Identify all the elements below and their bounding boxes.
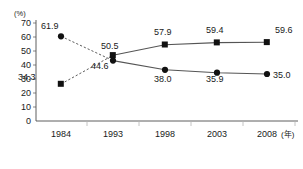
y-tick-label-60: 60 xyxy=(21,32,31,42)
x-tick-label-2003: 2003 xyxy=(207,129,227,139)
chart-canvas: (%) 70 60 50 40 30 20 10 0 xyxy=(0,0,303,169)
y-axis-unit: (%) xyxy=(14,9,26,18)
y-tick-label-40: 40 xyxy=(21,60,31,70)
x-tick-label-1984: 1984 xyxy=(51,129,71,139)
value-label-1993-low: 44.6 xyxy=(91,61,109,71)
data-point-circle-1998 xyxy=(162,67,168,73)
data-point-square-1984 xyxy=(58,81,64,87)
data-point-circle-1993 xyxy=(110,58,116,64)
value-label-2003-low: 35.9 xyxy=(206,74,224,84)
value-label-2008-low: 35.0 xyxy=(273,70,291,80)
data-point-square-2008 xyxy=(264,39,270,45)
x-tick-label-1998: 1998 xyxy=(155,129,175,139)
x-axis-unit: (年) xyxy=(281,129,295,139)
data-point-circle-1984 xyxy=(58,33,64,39)
value-label-2003-high: 59.4 xyxy=(206,25,224,35)
series-circle-line xyxy=(113,61,267,74)
x-tick-label-1993: 1993 xyxy=(103,129,123,139)
value-label-1993-high: 50.5 xyxy=(101,41,119,51)
series-square-line xyxy=(113,42,267,55)
y-tick-label-70: 70 xyxy=(21,18,31,28)
data-point-square-1993 xyxy=(110,52,116,58)
value-label-1984-low: 34.3 xyxy=(18,72,36,82)
y-tick-label-20: 20 xyxy=(21,88,31,98)
data-point-circle-2008 xyxy=(264,71,270,77)
y-tick-label-10: 10 xyxy=(21,102,31,112)
value-label-2008-high: 59.6 xyxy=(275,25,293,35)
value-label-1998-high: 57.9 xyxy=(154,27,172,37)
y-tick-label-0: 0 xyxy=(26,116,31,126)
value-label-1984-high: 61.9 xyxy=(41,21,59,31)
x-axis-ticks xyxy=(87,121,295,126)
line-chart: (%) 70 60 50 40 30 20 10 0 xyxy=(0,0,303,169)
data-point-square-2003 xyxy=(214,39,220,45)
y-tick-label-50: 50 xyxy=(21,46,31,56)
x-tick-label-2008: 2008 xyxy=(257,129,277,139)
value-label-1998-low: 38.0 xyxy=(154,74,172,84)
data-point-square-1998 xyxy=(162,42,168,48)
